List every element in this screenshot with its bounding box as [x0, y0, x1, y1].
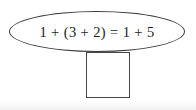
scan-shadow	[0, 101, 196, 110]
equation-text: 1 + (3 + 2) = 1 + 5	[39, 24, 154, 40]
diagram-canvas: 1 + (3 + 2) = 1 + 5	[0, 0, 196, 110]
equation-ellipse: 1 + (3 + 2) = 1 + 5	[9, 11, 185, 52]
blank-square	[86, 52, 130, 98]
